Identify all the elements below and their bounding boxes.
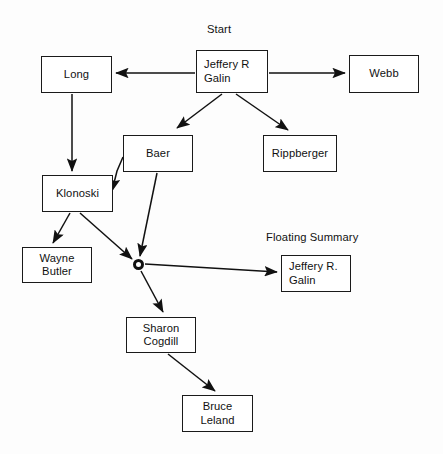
node-jeffery-r-galin-label-line2: Galin xyxy=(204,72,231,85)
node-jeffery-r-galin-label-line1: Jeffery R xyxy=(204,58,249,71)
edge-baer-to-junction xyxy=(140,173,157,256)
node-sharon-cogdill-label-line1: Sharon xyxy=(143,322,180,335)
node-sharon-cogdill-label-line2: Cogdill xyxy=(144,335,179,348)
node-klonoski[interactable]: Klonoski xyxy=(42,175,113,212)
node-rippberger[interactable]: Rippberger xyxy=(263,135,337,172)
node-webb[interactable]: Webb xyxy=(349,55,419,93)
node-summary-jeffery-r-galin[interactable]: Jeffery R. Galin xyxy=(281,255,351,292)
node-summary-jeffery-r-galin-label-line2: Galin xyxy=(289,274,316,287)
node-summary-jeffery-r-galin-label-line1: Jeffery R. xyxy=(289,260,338,273)
node-jeffery-r-galin[interactable]: Jeffery R Galin xyxy=(196,50,268,93)
node-wayne-butler[interactable]: Wayne Butler xyxy=(22,247,92,283)
node-wayne-butler-label-line2: Butler xyxy=(42,265,72,278)
edge-junction-to-summary-galin xyxy=(145,264,277,272)
edge-baer-to-klonoski xyxy=(112,157,123,191)
node-rippberger-label: Rippberger xyxy=(272,147,328,160)
node-klonoski-label: Klonoski xyxy=(56,187,99,200)
edge-galin-to-baer xyxy=(177,94,222,128)
edge-klonoski-to-wayne-butler xyxy=(53,213,70,243)
edge-junction-to-sharon-cogdill xyxy=(141,271,163,312)
node-baer[interactable]: Baer xyxy=(123,135,193,172)
start-label: Start xyxy=(207,23,231,36)
junction-node[interactable] xyxy=(133,259,144,270)
edge-sharon-cogdill-to-bruce-leland xyxy=(168,354,215,391)
node-baer-label: Baer xyxy=(146,147,170,160)
node-long[interactable]: Long xyxy=(41,56,112,93)
floating-summary-label: Floating Summary xyxy=(266,231,358,244)
node-wayne-butler-label-line1: Wayne xyxy=(40,252,75,265)
diagram-canvas: Start Floating Summary Long Jeffery R Ga… xyxy=(0,0,443,454)
node-sharon-cogdill[interactable]: Sharon Cogdill xyxy=(126,317,196,353)
node-bruce-leland-label-line2: Leland xyxy=(200,414,234,427)
node-webb-label: Webb xyxy=(369,67,398,80)
node-bruce-leland[interactable]: Bruce Leland xyxy=(182,395,253,432)
node-long-label: Long xyxy=(64,68,89,81)
node-bruce-leland-label-line1: Bruce xyxy=(203,400,233,413)
edge-galin-to-rippberger xyxy=(236,94,288,130)
